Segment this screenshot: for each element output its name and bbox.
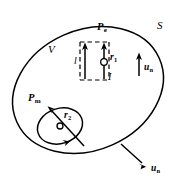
normal-outer-label: un [151, 164, 160, 174]
current-label: I [108, 72, 111, 82]
position-magnetic-label: r2 [64, 111, 71, 121]
normal-vector-outer-icon [121, 144, 146, 169]
electric-dipole-label: Pe [97, 22, 107, 33]
current-arrow-left-icon [82, 43, 88, 80]
field-point-magnetic-icon [57, 123, 63, 129]
diagram-canvas [0, 0, 179, 180]
magnetic-dipole-label: Pm [28, 93, 40, 104]
length-label: l [74, 56, 77, 66]
volume-label: V [48, 44, 55, 55]
normal-vector-inner-icon [136, 53, 142, 77]
normal-inner-label: un [144, 63, 153, 73]
surface-label: S [157, 20, 163, 31]
surface-boundary-icon [0, 3, 179, 176]
field-point-electric-icon [101, 59, 108, 66]
position-electric-label: r1 [110, 53, 117, 63]
physics-diagram: S V Pe Pm l I r1 r2 un un [0, 0, 179, 180]
